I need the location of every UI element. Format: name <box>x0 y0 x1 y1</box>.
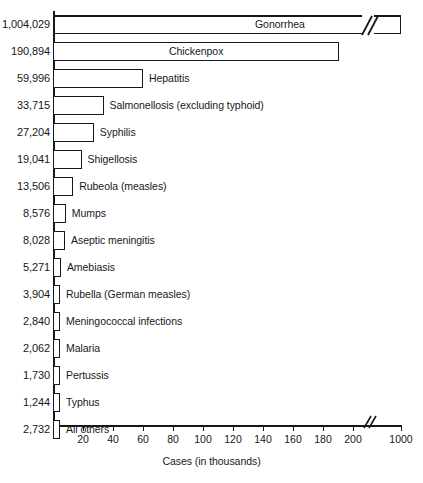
x-axis-tick-label: 1000 <box>389 433 412 445</box>
chart-row: 3,904Rubella (German measles) <box>0 281 423 308</box>
x-axis-break-icon <box>358 415 380 429</box>
bar-category-label: Meningococcal infections <box>66 308 182 335</box>
bar-category-label: Malaria <box>66 335 100 362</box>
bar <box>53 339 60 358</box>
bar-broken-segment <box>53 15 362 34</box>
bar <box>53 123 94 142</box>
bar <box>53 96 104 115</box>
x-axis-tick <box>233 425 234 431</box>
bar <box>53 312 60 331</box>
chart-row: 8,028Aseptic meningitis <box>0 227 423 254</box>
x-axis-tick <box>83 425 84 431</box>
bar-value-label: 1,004,029 <box>0 11 50 38</box>
x-axis-tick-label: 120 <box>224 433 242 445</box>
bar-value-label: 8,028 <box>0 227 50 254</box>
x-axis-tick <box>401 425 402 431</box>
bar-end-segment <box>374 15 401 34</box>
bar <box>53 366 60 385</box>
bar-value-label: 190,894 <box>0 38 50 65</box>
bar-value-label: 59,996 <box>0 65 50 92</box>
chart-row: 5,271Amebiasis <box>0 254 423 281</box>
chart-row: 1,004,029Gonorrhea <box>0 11 423 38</box>
bar-category-label: Rubeola (measles) <box>79 173 166 200</box>
bar-category-label: Gonorrhea <box>255 11 305 38</box>
bar-value-label: 2,062 <box>0 335 50 362</box>
chart-row: 2,062Malaria <box>0 335 423 362</box>
bar <box>53 231 65 250</box>
x-axis-tick-label: 20 <box>77 433 89 445</box>
bar <box>53 204 66 223</box>
bar-category-label: Salmonellosis (excluding typhoid) <box>110 92 264 119</box>
bar-category-label: Pertussis <box>66 362 109 389</box>
bar-value-label: 2,840 <box>0 308 50 335</box>
x-axis-tick-label: 80 <box>167 433 179 445</box>
x-axis-tick-label: 180 <box>314 433 332 445</box>
bar-category-label: Amebiasis <box>67 254 115 281</box>
x-axis-tick <box>143 425 144 431</box>
chart-row: 1,244Typhus <box>0 389 423 416</box>
bar-value-label: 1,730 <box>0 362 50 389</box>
bar <box>53 393 60 412</box>
chart-row: 27,204Syphilis <box>0 119 423 146</box>
x-axis-tick-label: 40 <box>107 433 119 445</box>
x-axis-tick-label: 160 <box>284 433 302 445</box>
bar-category-label: Shigellosis <box>88 146 138 173</box>
chart-row: 13,506Rubeola (measles) <box>0 173 423 200</box>
bar-category-label: Mumps <box>72 200 106 227</box>
x-axis-title: Cases (in thousands) <box>0 455 423 467</box>
bar <box>53 420 60 439</box>
chart-row: 190,894Chickenpox <box>0 38 423 65</box>
x-axis-tick <box>353 425 354 431</box>
bar-value-label: 13,506 <box>0 173 50 200</box>
bar <box>53 177 73 196</box>
bar-category-label: Typhus <box>66 389 100 416</box>
bar <box>53 258 61 277</box>
bar-value-label: 19,041 <box>0 146 50 173</box>
bar-category-label: Hepatitis <box>149 65 189 92</box>
chart-row: 2,840Meningococcal infections <box>0 308 423 335</box>
bar-category-label: Syphilis <box>100 119 136 146</box>
chart-row: 19,041Shigellosis <box>0 146 423 173</box>
x-axis-tick <box>113 425 114 431</box>
bar <box>53 69 143 88</box>
bar-category-label: Rubella (German measles) <box>66 281 190 308</box>
bar-value-label: 8,576 <box>0 200 50 227</box>
bar <box>53 285 60 304</box>
x-axis-tick <box>293 425 294 431</box>
chart-row: 1,730Pertussis <box>0 362 423 389</box>
bar-category-label: Aseptic meningitis <box>71 227 155 254</box>
bar-category-label: Chickenpox <box>169 38 223 65</box>
x-axis-tick-label: 100 <box>194 433 212 445</box>
chart-row: 8,576Mumps <box>0 200 423 227</box>
x-axis-tick-label: 200 <box>344 433 362 445</box>
bar-value-label: 1,244 <box>0 389 50 416</box>
chart-row: 59,996Hepatitis <box>0 65 423 92</box>
plot-area: 1,004,029Gonorrhea190,894Chickenpox59,99… <box>0 0 423 483</box>
x-axis-tick <box>323 425 324 431</box>
x-axis-tick-label: 60 <box>137 433 149 445</box>
bar <box>53 150 82 169</box>
bar-value-label: 33,715 <box>0 92 50 119</box>
x-axis-tick <box>173 425 174 431</box>
x-axis-tick <box>203 425 204 431</box>
x-axis-tick-label: 140 <box>254 433 272 445</box>
chart-row: 33,715Salmonellosis (excluding typhoid) <box>0 92 423 119</box>
bar-value-label: 27,204 <box>0 119 50 146</box>
disease-cases-bar-chart: 1,004,029Gonorrhea190,894Chickenpox59,99… <box>0 0 423 483</box>
x-axis-tick <box>263 425 264 431</box>
bar-value-label: 5,271 <box>0 254 50 281</box>
bar-value-label: 3,904 <box>0 281 50 308</box>
bar-value-label: 2,732 <box>0 416 50 443</box>
